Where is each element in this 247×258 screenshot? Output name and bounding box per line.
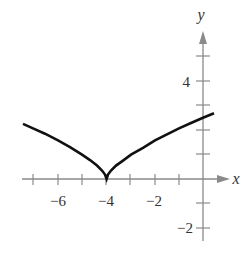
y-tick-label-4: 4 (183, 74, 191, 90)
x-axis-arrow-icon (217, 175, 230, 183)
y-tick-label-neg2: −2 (177, 220, 193, 236)
x-tick-label-neg6: −6 (50, 193, 66, 209)
x-axis-title: x (231, 170, 239, 187)
y-axis-arrow-icon (199, 31, 207, 44)
graph: −6 −4 −2 4 −2 x y (0, 0, 247, 258)
y-axis-title: y (195, 6, 205, 24)
x-tick-label-neg4: −4 (98, 193, 114, 209)
x-tick-label-neg2: −2 (146, 193, 162, 209)
function-curve (23, 113, 214, 179)
